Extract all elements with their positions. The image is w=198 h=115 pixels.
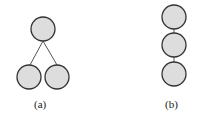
tree-diagram-a	[17, 17, 69, 89]
edge	[43, 41, 57, 65]
node	[162, 33, 186, 57]
caption-b: (b)	[165, 98, 178, 110]
node	[17, 65, 41, 89]
node	[162, 62, 186, 86]
caption-a: (a)	[34, 98, 46, 110]
chain-diagram-b	[162, 5, 186, 86]
node	[31, 17, 55, 41]
node	[162, 5, 186, 29]
edge	[30, 41, 43, 65]
node	[45, 65, 69, 89]
